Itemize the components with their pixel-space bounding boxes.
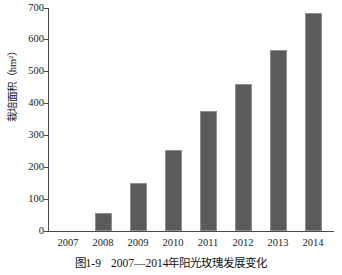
x-tick-label-2009: 2009 xyxy=(118,236,158,249)
figure-caption: 图1-92007—2014年阳光玫瑰发展变化 xyxy=(0,256,342,271)
y-tick-mark xyxy=(44,135,48,136)
y-tick-label: 100 xyxy=(28,192,44,205)
y-tick-mark xyxy=(44,8,48,9)
y-tick-label: 500 xyxy=(28,64,44,77)
x-tick-label-2012: 2012 xyxy=(223,236,263,249)
y-tick-label: 300 xyxy=(28,128,44,141)
y-tick-label: 600 xyxy=(28,32,44,45)
y-tick-mark xyxy=(44,71,48,72)
y-tick-label: 700 xyxy=(28,1,44,14)
y-axis-title: 栽培面积（hm²） xyxy=(7,25,19,143)
y-tick-mark xyxy=(44,199,48,200)
y-tick-mark xyxy=(44,167,48,168)
y-tick-mark xyxy=(44,39,48,40)
x-tick-label-2010: 2010 xyxy=(153,236,193,249)
bar-2011 xyxy=(200,111,217,231)
y-tick-label: 0 xyxy=(39,224,44,237)
bar-2009 xyxy=(130,183,147,231)
y-axis-line xyxy=(48,8,49,232)
figure-caption-number: 图1-9 xyxy=(75,257,101,269)
x-tick-label-2007: 2007 xyxy=(48,236,88,249)
bar-2008 xyxy=(95,213,112,231)
bar-2012 xyxy=(235,84,252,231)
x-tick-label-2014: 2014 xyxy=(293,236,333,249)
x-tick-label-2011: 2011 xyxy=(188,236,228,249)
y-tick-label: 200 xyxy=(28,160,44,173)
figure-caption-text: 2007—2014年阳光玫瑰发展变化 xyxy=(111,257,268,269)
bar-2013 xyxy=(270,50,287,231)
y-tick-label: 400 xyxy=(28,96,44,109)
bar-2014 xyxy=(305,13,322,231)
x-tick-label-2013: 2013 xyxy=(258,236,298,249)
x-tick-label-2008: 2008 xyxy=(83,236,123,249)
bar-2010 xyxy=(165,150,182,231)
y-tick-mark xyxy=(44,103,48,104)
x-axis-line xyxy=(48,231,334,232)
figure-bar-chart: 栽培面积（hm²） 0 100 200 300 400 500 xyxy=(0,0,342,275)
plot-area: 0 100 200 300 400 500 600 700 xyxy=(48,8,334,232)
y-tick-mark xyxy=(44,231,48,232)
